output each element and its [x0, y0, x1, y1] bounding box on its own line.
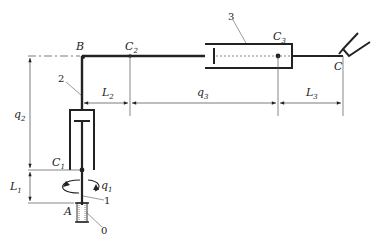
label-q3: q3 [197, 86, 209, 101]
leader-1 [83, 196, 104, 200]
base-support [77, 203, 87, 222]
leader-3 [233, 20, 246, 43]
label-q2: q2 [14, 108, 26, 123]
label-c: C [334, 60, 343, 73]
point-c1 [80, 168, 85, 173]
gripper-jaws [339, 33, 370, 56]
label-c1: C1 [52, 156, 65, 171]
label-l2: L2 [101, 86, 114, 101]
label-l3: L3 [305, 86, 318, 101]
leader-2 [66, 82, 81, 95]
label-q1: q1 [101, 179, 113, 194]
label-link-2: 2 [58, 73, 64, 84]
gripper [338, 33, 348, 50]
label-link-3: 3 [228, 11, 234, 22]
rotation-arrow-q1 [63, 180, 99, 193]
leader-0 [86, 212, 102, 227]
label-b: B [75, 40, 84, 53]
label-link-0: 0 [101, 225, 107, 236]
manipulator-diagram: B C2 C3 C C1 A q2 L1 L2 q3 L3 q1 2 3 1 0 [0, 0, 381, 241]
label-c2: C2 [125, 40, 138, 55]
label-c3: C3 [273, 30, 286, 45]
joint-b [81, 55, 85, 59]
label-link-1: 1 [104, 195, 110, 206]
label-a: A [63, 205, 72, 218]
label-l1: L1 [9, 180, 22, 195]
